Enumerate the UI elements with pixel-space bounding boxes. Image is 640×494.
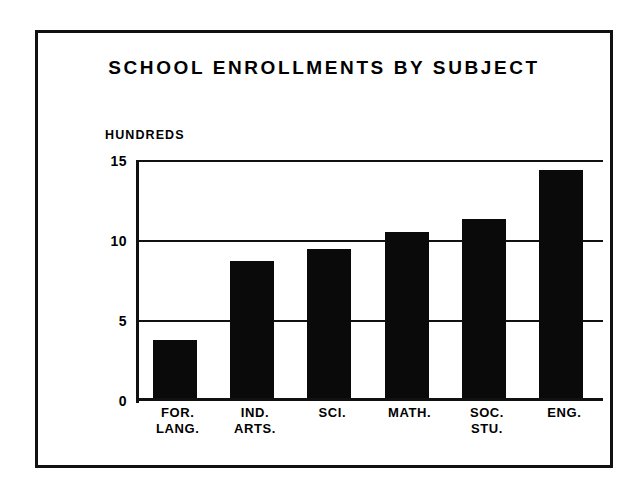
x-axis-categories: FOR. LANG.IND. ARTS.SCI.MATH.SOC. STU.EN… [139, 405, 603, 465]
bars-group [139, 161, 603, 398]
bar-slot [539, 161, 583, 398]
bar-slot [462, 161, 506, 398]
category-label: MATH. [371, 405, 448, 421]
y-tick-label: 10 [110, 233, 127, 249]
category-label: SOC. STU. [448, 405, 525, 437]
bar[interactable] [462, 219, 506, 398]
y-axis-unit-label: HUNDREDS [105, 128, 185, 142]
y-tick-label: 15 [110, 153, 127, 169]
bar-slot [307, 161, 351, 398]
bar[interactable] [385, 232, 429, 398]
category-label: ENG. [526, 405, 603, 421]
bar[interactable] [539, 170, 583, 398]
bar[interactable] [230, 261, 274, 398]
plot-area: 051015 [136, 161, 603, 401]
bar-slot [153, 161, 197, 398]
bar[interactable] [307, 249, 351, 398]
category-label: IND. ARTS. [216, 405, 293, 437]
bar-slot [385, 161, 429, 398]
x-axis-line [136, 398, 603, 401]
chart-title: SCHOOL ENROLLMENTS BY SUBJECT [38, 57, 610, 79]
bar-slot [230, 161, 274, 398]
category-label: SCI. [294, 405, 371, 421]
category-label: FOR. LANG. [139, 405, 216, 437]
bar[interactable] [153, 340, 197, 398]
y-tick-label: 5 [119, 313, 127, 329]
y-tick-label: 0 [119, 393, 127, 409]
chart-frame: SCHOOL ENROLLMENTS BY SUBJECT HUNDREDS 0… [35, 30, 613, 468]
